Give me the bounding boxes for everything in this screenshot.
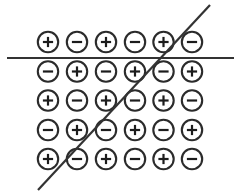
charge-plus-r1c1 (38, 32, 58, 52)
charge-plus-r3c5 (153, 90, 173, 110)
charge-plus-r1c5 (153, 32, 173, 52)
charge-plus-r5c3 (96, 149, 116, 169)
charge-minus-r1c4 (125, 32, 145, 52)
charge-minus-r3c6 (182, 90, 202, 110)
charge-plus-r2c6 (182, 61, 202, 81)
lattice-canvas (0, 0, 241, 193)
charge-lattice-figure (0, 0, 241, 193)
charge-plus-r5c5 (153, 149, 173, 169)
charge-plus-r2c2 (67, 61, 87, 81)
charge-minus-r5c6 (182, 149, 202, 169)
charge-minus-r3c2 (67, 90, 87, 110)
charge-minus-r5c2 (67, 149, 87, 169)
charge-plus-r1c3 (96, 32, 116, 52)
charge-minus-r4c5 (153, 120, 173, 140)
charge-plus-r4c4 (125, 120, 145, 140)
charge-plus-r5c1 (38, 149, 58, 169)
charge-minus-r1c2 (67, 32, 87, 52)
charge-plus-r3c1 (38, 90, 58, 110)
charge-minus-r4c1 (38, 120, 58, 140)
charge-minus-r5c4 (125, 149, 145, 169)
figure-background (0, 0, 241, 193)
charge-minus-r2c5 (153, 61, 173, 81)
charge-plus-r4c6 (182, 120, 202, 140)
charge-minus-r1c6 (182, 32, 202, 52)
charge-minus-r2c1 (38, 61, 58, 81)
charge-plus-r4c2 (67, 120, 87, 140)
charge-minus-r4c3 (96, 120, 116, 140)
charge-minus-r2c3 (96, 61, 116, 81)
